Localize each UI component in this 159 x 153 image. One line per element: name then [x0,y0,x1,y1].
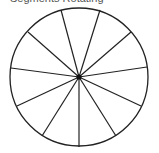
center-hub [76,74,81,79]
segmented-circle-diagram [0,0,159,153]
spoke-line [61,10,79,77]
spoke-line [11,68,79,77]
spoke-line [79,10,100,77]
spoke-line [28,32,79,77]
